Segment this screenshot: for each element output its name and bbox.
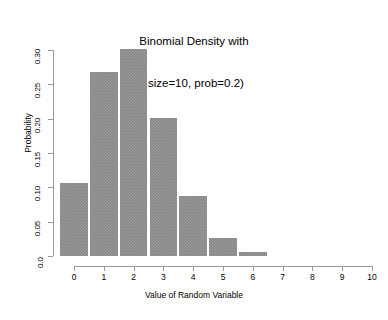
- x-tick-label: 8: [300, 272, 324, 282]
- x-tick-mark: [134, 266, 135, 271]
- y-tick-label-text: 0.15: [34, 152, 43, 168]
- x-tick-mark: [283, 266, 284, 271]
- x-tick-label: 10: [360, 272, 384, 282]
- x-axis-title: Value of Random Variable: [0, 290, 388, 300]
- y-tick-label-text: 0.20: [34, 117, 43, 133]
- x-tick-label: 7: [271, 272, 295, 282]
- y-tick-label: 0.0: [0, 251, 46, 261]
- bar: [59, 183, 89, 256]
- x-tick-mark: [163, 266, 164, 271]
- x-tick-label: 1: [92, 272, 116, 282]
- x-tick-mark: [193, 266, 194, 271]
- x-tick-mark: [223, 266, 224, 271]
- x-tick-label: 5: [211, 272, 235, 282]
- x-tick-label: 0: [62, 272, 86, 282]
- plot-area: [53, 44, 378, 256]
- y-tick-label: 0.30: [0, 45, 46, 55]
- bar: [89, 72, 119, 256]
- y-tick-label: 0.10: [0, 182, 46, 192]
- x-tick-label: 2: [122, 272, 146, 282]
- y-tick-label: 0.05: [0, 217, 46, 227]
- x-tick-mark: [312, 266, 313, 271]
- chart-canvas: Binomial Density with (size=10, prob=0.2…: [0, 0, 388, 320]
- y-tick-label-text: 0.25: [34, 83, 43, 99]
- bar: [238, 252, 268, 256]
- y-tick-label-text: 0.0: [36, 257, 45, 268]
- y-tick-label-text: 0.05: [34, 220, 43, 236]
- bar: [178, 196, 208, 256]
- bar: [149, 118, 179, 256]
- bar: [119, 49, 149, 256]
- bar: [208, 238, 238, 256]
- y-tick-label: 0.25: [0, 79, 46, 89]
- x-tick-mark: [372, 266, 373, 271]
- x-tick-label: 6: [241, 272, 265, 282]
- y-axis-title: Probability: [23, 93, 33, 173]
- y-tick-label-text: 0.30: [34, 49, 43, 65]
- x-tick-label: 4: [181, 272, 205, 282]
- x-tick-mark: [253, 266, 254, 271]
- x-tick-label: 3: [151, 272, 175, 282]
- x-tick-mark: [74, 266, 75, 271]
- x-tick-mark: [342, 266, 343, 271]
- y-tick-mark: [48, 256, 53, 257]
- y-tick-label-text: 0.10: [34, 186, 43, 202]
- x-tick-mark: [104, 266, 105, 271]
- x-tick-label: 9: [330, 272, 354, 282]
